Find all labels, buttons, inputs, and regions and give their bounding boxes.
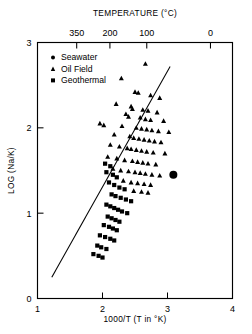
data-point-triangle — [97, 121, 102, 126]
data-point-triangle — [146, 190, 151, 195]
legend-square-icon — [51, 78, 55, 82]
data-point-square — [119, 196, 123, 200]
data-point-triangle — [119, 76, 124, 81]
data-point-triangle — [156, 129, 161, 134]
data-point-triangle — [118, 168, 123, 173]
data-point-square — [103, 235, 107, 239]
data-point-square — [123, 187, 127, 191]
data-point-triangle — [143, 61, 148, 66]
data-point-triangle — [105, 154, 110, 159]
data-point-square — [111, 173, 115, 177]
data-point-square — [110, 216, 114, 220]
top-tick-label: 0 — [208, 28, 213, 38]
data-point-square — [100, 255, 104, 259]
data-point-triangle — [148, 93, 153, 98]
data-point-triangle — [134, 147, 139, 152]
data-point-triangle — [121, 178, 126, 183]
data-point-square — [107, 225, 111, 229]
data-point-triangle — [144, 127, 149, 132]
data-point-triangle — [117, 144, 122, 149]
data-point-square — [112, 206, 116, 210]
data-point-triangle — [144, 149, 149, 154]
series-oil-field — [97, 61, 171, 194]
data-point-triangle — [126, 169, 131, 174]
legend-label: Geothermal — [61, 75, 106, 85]
legend-label: Seawater — [61, 52, 97, 62]
data-point-square — [124, 197, 128, 201]
data-point-triangle — [108, 142, 113, 147]
data-point-triangle — [130, 158, 135, 163]
y-tick-label: 3 — [26, 38, 31, 48]
data-point-square — [98, 233, 102, 237]
data-point-triangle — [166, 129, 171, 134]
data-point-triangle — [122, 158, 127, 163]
data-point-triangle — [139, 126, 144, 131]
data-point-triangle — [155, 110, 160, 115]
trend-line — [52, 66, 170, 277]
data-point-triangle — [159, 140, 164, 145]
data-point-square — [117, 220, 121, 224]
data-point-triangle — [143, 117, 148, 122]
data-point-triangle — [142, 137, 147, 142]
data-point-square — [108, 237, 112, 241]
data-point-square — [108, 164, 112, 168]
data-point-triangle — [152, 139, 157, 144]
data-point-square — [112, 238, 116, 242]
data-point-triangle — [139, 148, 144, 153]
data-point-square — [103, 162, 107, 166]
y-tick-label: 1 — [26, 209, 31, 219]
data-point-triangle — [140, 160, 145, 165]
data-point-square — [106, 214, 110, 218]
legend-item-oil-field: Oil Field — [51, 64, 93, 74]
data-point-square — [129, 199, 133, 203]
legend-circle-icon — [51, 55, 55, 59]
data-point-triangle — [131, 135, 136, 140]
y-tick-label: 2 — [26, 123, 31, 133]
data-point-triangle — [112, 132, 117, 137]
data-point-square — [104, 203, 108, 207]
y-tick-label: 0 — [26, 294, 31, 304]
data-point-square — [95, 243, 99, 247]
data-point-triangle — [101, 123, 106, 128]
data-point-triangle — [146, 161, 151, 166]
data-point-triangle — [153, 162, 158, 167]
x-axis-title: 1000/T (T in °K) — [103, 314, 166, 324]
data-point-triangle — [131, 188, 136, 193]
data-point-triangle — [147, 138, 152, 143]
data-point-square — [116, 208, 120, 212]
data-point-triangle — [114, 101, 119, 106]
data-point-square — [104, 170, 108, 174]
data-point-square — [102, 223, 106, 227]
data-point-triangle — [133, 170, 138, 175]
data-point-square — [108, 204, 112, 208]
data-point-square — [107, 180, 111, 184]
legend-item-geothermal: Geothermal — [51, 75, 106, 85]
data-point-triangle — [148, 182, 153, 187]
data-point-triangle — [157, 173, 162, 178]
top-tick-label: 200 — [102, 28, 117, 38]
x-tick-label: 4 — [230, 304, 235, 314]
x-tick-label: 1 — [35, 304, 40, 314]
data-point-square — [91, 252, 95, 256]
legend-label: Oil Field — [61, 64, 93, 74]
data-point-triangle — [142, 181, 147, 186]
x-tick-label: 3 — [165, 304, 170, 314]
series-seawater — [169, 171, 177, 179]
data-point-square — [117, 185, 121, 189]
top-tick-label: 350 — [69, 28, 84, 38]
data-point-triangle — [157, 95, 162, 100]
series-geothermal — [91, 162, 133, 260]
data-point-triangle — [162, 151, 167, 156]
data-point-triangle — [143, 171, 148, 176]
scatter-plot-figure: TEMPERATURE (°C)3502001000123401231000/T… — [0, 0, 252, 334]
y-axis-title: LOG (Na/K) — [6, 147, 16, 194]
data-point-triangle — [123, 111, 128, 116]
data-point-square — [112, 183, 116, 187]
top-tick-label: 100 — [139, 28, 154, 38]
data-point-triangle — [120, 123, 125, 128]
data-point-triangle — [129, 146, 134, 151]
data-point-triangle — [134, 125, 139, 130]
data-point-triangle — [138, 170, 143, 175]
data-point-circle — [169, 171, 177, 179]
plot-svg: TEMPERATURE (°C)3502001000123401231000/T… — [0, 0, 252, 334]
